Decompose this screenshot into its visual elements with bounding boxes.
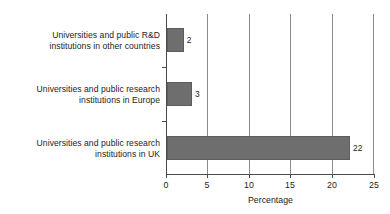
bar-chart: Universities and public R&D institutions… bbox=[0, 0, 390, 214]
x-axis-tick bbox=[249, 174, 250, 178]
category-label: Universities and public R&D institutions… bbox=[0, 30, 160, 51]
x-axis-tick-label: 10 bbox=[237, 181, 261, 190]
x-axis-tick bbox=[332, 174, 333, 178]
x-axis-tick-label: 5 bbox=[195, 181, 219, 190]
bar bbox=[167, 28, 184, 52]
y-axis-tick bbox=[162, 67, 166, 68]
x-axis-tick-label: 0 bbox=[154, 181, 178, 190]
bar-value-label: 22 bbox=[353, 144, 362, 152]
x-axis-tick bbox=[166, 174, 167, 178]
x-axis-tick bbox=[290, 174, 291, 178]
x-axis-line bbox=[166, 174, 375, 175]
category-label: Universities and public research institu… bbox=[0, 84, 160, 105]
x-axis-tick-label: 25 bbox=[362, 181, 386, 190]
y-axis-tick bbox=[162, 121, 166, 122]
bar bbox=[167, 136, 350, 160]
x-axis-tick-label: 20 bbox=[320, 181, 344, 190]
x-axis-tick-label: 15 bbox=[278, 181, 302, 190]
x-axis-title: Percentage bbox=[166, 196, 375, 205]
bar-value-label: 2 bbox=[187, 36, 192, 44]
bar-value-label: 3 bbox=[195, 90, 200, 98]
x-axis-tick bbox=[374, 174, 375, 178]
category-label: Universities and public research institu… bbox=[0, 138, 160, 159]
bar bbox=[167, 82, 192, 106]
x-axis-tick bbox=[207, 174, 208, 178]
gridline-25 bbox=[373, 14, 374, 174]
